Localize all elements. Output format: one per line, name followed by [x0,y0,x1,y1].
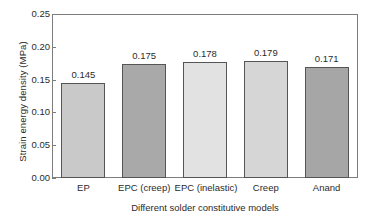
y-tick-label: 0.15 [0,74,50,86]
y-tick-label: 0.00 [0,172,50,184]
bar-chart: Strain energy density (MPa) 0.250.200.15… [0,0,368,222]
y-tick-mark [52,178,56,179]
y-tick-label: 0.05 [0,139,50,151]
x-tick-label: EPC (inelastic) [175,182,236,193]
x-tick-label: EP [53,182,114,193]
bars-layer: 0.1450.1750.1780.1790.171 [53,15,357,178]
bar-value-label: 0.145 [47,69,119,81]
y-tick-label: 0.20 [0,41,50,53]
bar [61,83,105,178]
bar [122,64,166,178]
x-tick-label: Creep [235,182,296,193]
bar-value-label: 0.171 [291,53,363,65]
bar [305,67,349,178]
y-tick-label: 0.10 [0,106,50,118]
x-axis-title: Different solder constitutive models [52,202,358,213]
x-tick-label: EPC (creep) [114,182,175,193]
x-tick-label: Anand [296,182,357,193]
y-tick-label: 0.25 [0,8,50,20]
bar [244,61,288,178]
bar [183,62,227,178]
